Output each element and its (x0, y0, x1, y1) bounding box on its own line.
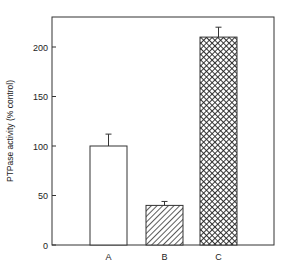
y-tick-label: 50 (38, 191, 48, 201)
bar-B (146, 205, 183, 245)
bar-chart: 050100150200 ABC PTPase activity (% cont… (0, 0, 289, 272)
y-axis-title: PTPase activity (% control) (5, 80, 15, 182)
y-tick-label: 0 (43, 241, 48, 251)
x-category-label: C (215, 252, 222, 262)
bar-C (200, 37, 237, 245)
bar-A (90, 146, 127, 245)
y-tick-label: 200 (33, 43, 48, 53)
y-tick-label: 150 (33, 92, 48, 102)
x-category-label: B (161, 252, 167, 262)
x-category-label: A (105, 252, 111, 262)
y-tick-label: 100 (33, 142, 48, 152)
